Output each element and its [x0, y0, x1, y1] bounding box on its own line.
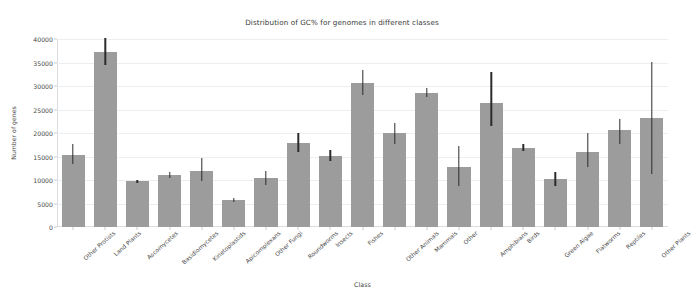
error-bar: [201, 158, 202, 181]
y-tick-mark: [54, 39, 57, 40]
x-tick-label: Fishes: [366, 230, 383, 247]
y-tick-label: 35000: [33, 59, 53, 66]
x-tick-label: Other Protists: [82, 230, 116, 261]
x-tick-mark: [105, 227, 106, 230]
bar: [319, 156, 342, 227]
x-tick-mark: [394, 227, 395, 230]
bar: [415, 93, 438, 227]
x-tick-mark: [426, 227, 427, 230]
error-bar: [458, 146, 459, 186]
error-bar: [587, 133, 588, 167]
y-tick-label: 40000: [33, 36, 53, 43]
gridline: [57, 63, 668, 64]
error-bar: [426, 88, 427, 97]
x-tick-mark: [73, 227, 74, 230]
error-bar: [651, 62, 652, 174]
x-tick-mark: [362, 227, 363, 230]
x-tick-mark: [651, 227, 652, 230]
y-tick-label: 25000: [33, 106, 53, 113]
gridline: [57, 39, 668, 40]
x-tick-mark: [201, 227, 202, 230]
x-axis-label: Class: [57, 281, 668, 289]
x-tick-mark: [169, 227, 170, 230]
bar: [287, 143, 310, 227]
error-bar: [555, 172, 556, 186]
bar: [222, 200, 245, 227]
error-bar: [233, 198, 234, 201]
y-tick-mark: [54, 109, 57, 110]
x-tick-mark: [233, 227, 234, 230]
y-tick-mark: [54, 86, 57, 87]
y-tick-label: 30000: [33, 83, 53, 90]
bar: [512, 148, 535, 227]
x-tick-label: Apicomplexans: [244, 230, 281, 264]
x-tick-label: Amphibians: [499, 230, 529, 258]
error-bar: [137, 180, 138, 183]
error-bar: [523, 144, 524, 151]
bar: [608, 130, 631, 227]
x-tick-label: Reptiles: [625, 230, 646, 250]
y-tick-mark: [54, 62, 57, 63]
bar: [126, 181, 149, 227]
y-tick-label: 20000: [33, 130, 53, 137]
error-bar: [619, 119, 620, 143]
y-tick-label: 10000: [33, 177, 53, 184]
error-bar: [362, 70, 363, 95]
x-tick-label: Flatworms: [594, 230, 621, 255]
y-tick-mark: [54, 203, 57, 204]
error-bar: [297, 133, 298, 152]
bar: [383, 133, 406, 227]
x-tick-mark: [330, 227, 331, 230]
chart-title: Distribution of GC% for genomes in diffe…: [0, 18, 684, 27]
x-tick-label: Other Plants: [660, 230, 691, 259]
error-bar: [394, 123, 395, 144]
x-tick-mark: [458, 227, 459, 230]
x-tick-label: Land Plants: [113, 230, 142, 257]
x-tick-mark: [137, 227, 138, 230]
error-bar: [330, 150, 331, 160]
x-tick-mark: [523, 227, 524, 230]
bar: [544, 179, 567, 227]
bar: [62, 155, 85, 227]
y-tick-label: 0: [49, 224, 53, 231]
error-bar: [169, 172, 170, 178]
plot-area: 0500010000150002000025000300003500040000…: [57, 39, 668, 227]
y-tick-label: 5000: [37, 200, 53, 207]
x-tick-mark: [619, 227, 620, 230]
x-tick-mark: [266, 227, 267, 230]
y-tick-mark: [54, 180, 57, 181]
x-tick-mark: [491, 227, 492, 230]
y-tick-mark: [54, 227, 57, 228]
y-tick-mark: [54, 156, 57, 157]
y-tick-label: 15000: [33, 153, 53, 160]
x-tick-mark: [555, 227, 556, 230]
x-tick-label: Green Algae: [564, 230, 595, 259]
x-tick-label: Ascomycetes: [146, 230, 179, 261]
x-tick-label: Birds: [526, 230, 541, 244]
error-bar: [72, 144, 73, 165]
error-bar: [490, 72, 491, 126]
error-bar: [105, 38, 106, 65]
y-axis-label: Number of genes: [10, 106, 17, 159]
x-tick-label: Other: [462, 230, 478, 246]
x-tick-mark: [587, 227, 588, 230]
x-tick-mark: [298, 227, 299, 230]
bar: [351, 83, 374, 227]
y-tick-mark: [54, 133, 57, 134]
bar: [254, 178, 277, 227]
error-bar: [265, 171, 266, 185]
bar: [94, 52, 117, 227]
bar: [158, 175, 181, 227]
